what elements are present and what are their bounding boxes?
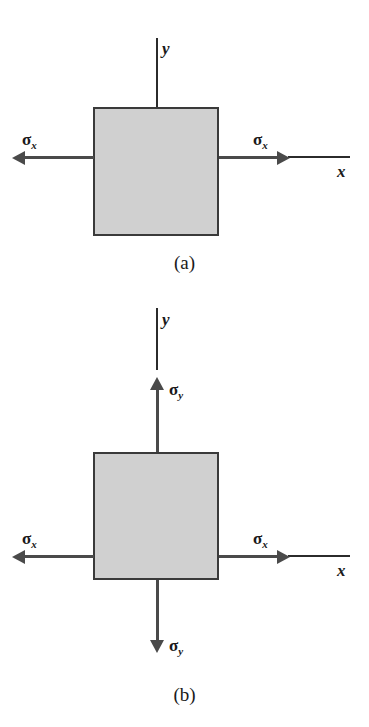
sigma-subscript: x	[262, 139, 268, 151]
sigma-glyph: σ	[253, 529, 262, 548]
sigma-subscript: y	[178, 389, 183, 401]
panel-caption-a: (a)	[0, 253, 369, 272]
sigma-glyph: σ	[22, 130, 31, 149]
panel-caption-b: (b)	[0, 685, 369, 704]
sigma-y-top-label-b: σy	[169, 381, 183, 401]
sigma-y-bottom-label-b: σy	[169, 637, 183, 657]
sigma-x-left-label-a: σx	[22, 131, 37, 151]
sigma-x-right-arrow-shaft-a	[219, 156, 279, 159]
sigma-x-left-arrow-shaft-a	[24, 156, 94, 159]
sigma-subscript: x	[31, 139, 37, 151]
x-axis-label-b: x	[337, 562, 346, 579]
sigma-x-left-arrow-head-a	[12, 151, 25, 165]
sigma-glyph: σ	[169, 380, 178, 399]
x-axis-label-a: x	[337, 163, 346, 180]
x-axis-line-a	[288, 156, 350, 158]
sigma-x-right-label-b: σx	[253, 530, 268, 550]
sigma-glyph: σ	[253, 130, 262, 149]
y-axis-label-b: y	[162, 311, 170, 328]
sigma-y-top-arrow-shaft-b	[156, 388, 159, 452]
sigma-y-bottom-arrow-shaft-b	[156, 580, 159, 642]
sigma-subscript: x	[31, 538, 37, 550]
sigma-x-right-arrow-head-a	[277, 151, 290, 165]
figure-panel-b: y x O σy σy σx σx (b)	[0, 285, 369, 727]
sigma-x-right-arrow-shaft-b	[219, 555, 279, 558]
y-axis-line-b	[156, 308, 158, 370]
y-axis-label-a: y	[162, 40, 170, 57]
stress-element-b	[93, 452, 219, 580]
sigma-subscript: x	[262, 538, 268, 550]
sigma-x-right-label-a: σx	[253, 131, 268, 151]
sigma-x-left-arrow-head-b	[12, 550, 25, 564]
sigma-y-bottom-arrow-head-b	[150, 640, 164, 653]
x-axis-line-b	[288, 555, 350, 557]
sigma-glyph: σ	[169, 636, 178, 655]
sigma-glyph: σ	[22, 529, 31, 548]
sigma-subscript: y	[178, 645, 183, 657]
sigma-x-left-label-b: σx	[22, 530, 37, 550]
stress-element-a	[93, 107, 219, 236]
sigma-x-left-arrow-shaft-b	[24, 555, 94, 558]
sigma-y-top-arrow-head-b	[150, 377, 164, 390]
figure-panel-a: y x O σx σx (a)	[0, 0, 369, 285]
sigma-x-right-arrow-head-b	[277, 550, 290, 564]
